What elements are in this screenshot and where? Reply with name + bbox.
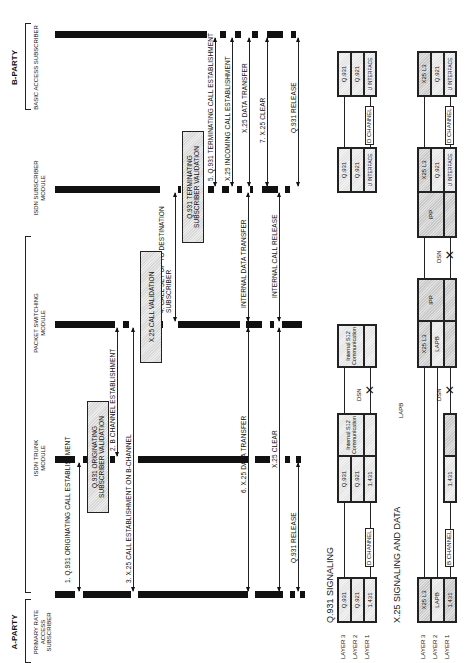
a-party-label: A-PARTY xyxy=(10,601,19,663)
ipp-link xyxy=(424,238,425,278)
stack-cell: X25 L3 xyxy=(418,578,431,622)
arrow-m8 xyxy=(298,463,299,591)
dsn-cross-icon: ✕ xyxy=(444,385,456,395)
stack-cell: 1.431 xyxy=(364,578,376,622)
arrow-m2 xyxy=(117,328,118,456)
stack-cell: 1.431 xyxy=(444,456,456,502)
stack-cell: Q.921 xyxy=(431,52,444,96)
q931-originating-validation-box: Q.931 ORIGINATING SUBSCRIBER VALIDATION xyxy=(87,401,109,513)
stack-cell: IPP xyxy=(418,192,444,237)
arrow-m6 xyxy=(248,328,249,591)
msg-5: 5. Q.931 TERMINATING CALL ESTABLISHMENT xyxy=(207,33,214,181)
stack-cell: X25 L3 xyxy=(418,148,431,192)
packet-switching-module-label: PACKET SWITCHING MODULE xyxy=(33,288,46,358)
stack-cell xyxy=(364,325,376,367)
x25-dsn-1: DSN xyxy=(436,388,442,401)
q931-stack-trunk: Q.931 Q.921 1.431 Internal S12 Communica… xyxy=(337,413,377,503)
stack-cell: Internal S12 Communication xyxy=(338,414,364,456)
msg-7: 7. X.25 CLEAR xyxy=(259,98,266,143)
arrow-m1 xyxy=(79,463,80,591)
q931-layer1-label: LAYER 1 xyxy=(364,635,370,659)
l3-link xyxy=(344,503,345,577)
b-party-bracket xyxy=(25,23,31,110)
msg-3: 3. X.25 CALL ESTABLISHMENT ON B-CHANNEL xyxy=(125,434,132,583)
msg-1: 1. Q.931 ORIGINATING CALL ESTABLISHMENT xyxy=(64,437,71,583)
msg-2: 2. B CHANNEL ESTABLISHMENT xyxy=(109,349,116,451)
q931-section-title: Q.931 SIGNALING xyxy=(325,547,335,623)
stack-cell: LAPB xyxy=(431,578,444,622)
b-party-label: B-PARTY xyxy=(10,25,19,110)
stack-cell: U INTERFACE xyxy=(444,148,456,192)
q931-stack-subscriber: Q.931 Q.921 U INTERFACE xyxy=(337,147,377,193)
b-party-subscriber: BASIC ACCESS SUBSCRIBER xyxy=(33,25,40,110)
stack-cell: U INTERFACE xyxy=(444,52,456,96)
msg-7b: X.25 CLEAR xyxy=(271,430,278,468)
x25-stack-trunk: 1.431 xyxy=(443,413,457,503)
arrow-m7b xyxy=(279,328,280,591)
msg-5b: X.25 INCOMING CALL ESTABLISHMENT xyxy=(224,56,231,181)
dsn-cross-icon: ✕ xyxy=(444,250,456,260)
stack-cell: Q.921 xyxy=(351,456,364,502)
x25-stack-a-party: X25 L3 LAPB 1.431 xyxy=(417,577,457,623)
msg-5c: X.25 DATA TRANSFER xyxy=(241,63,248,133)
l3-link xyxy=(344,97,345,147)
arrow-m6b xyxy=(248,193,249,321)
dsn-cross-icon: ✕ xyxy=(364,385,376,395)
stack-cell: 1.431 xyxy=(444,578,456,622)
x25-layer3-label: LAYER 3 xyxy=(420,635,426,659)
a-party-bracket xyxy=(25,599,31,663)
q931-stack-b-party: Q.931 Q.921 U INTERFACE xyxy=(337,51,377,97)
msg-8: Q.931 RELEASE xyxy=(290,512,297,563)
stack-cell: X25 L3 xyxy=(418,52,431,96)
msg-6: 6. X.25 DATA TRANSFER xyxy=(240,416,247,493)
q931-stack-a-party: Q.931 Q.921 1.431 xyxy=(337,577,377,623)
stack-cell: LAPB xyxy=(431,321,444,367)
arrow-m4 xyxy=(175,193,176,321)
exchange-bracket xyxy=(25,236,31,593)
stack-cell: Q.931 xyxy=(338,148,351,192)
isdn-subscriber-module-label: ISDN SUBSCRIBER MODULE xyxy=(33,153,46,223)
stack-cell: Q.921 xyxy=(351,148,364,192)
arrow-m7c xyxy=(279,193,280,321)
a-party-subscriber: PRIMARY RATE ACCESS SUBSCRIBER xyxy=(33,601,53,663)
arrow-m5b xyxy=(232,38,233,186)
stack-cell: U INTERFACE xyxy=(364,148,376,192)
isdn-trunk-module-label: ISDN TRUNK MODULE xyxy=(33,428,46,488)
q931-dsn-label: DSN xyxy=(356,388,362,401)
stack-cell: Q.931 xyxy=(338,456,351,502)
x25-call-validation-box: X.25 CALL VALIDATION xyxy=(140,251,162,363)
arrow-m8b xyxy=(298,38,299,186)
stack-cell: 1.431 xyxy=(364,456,376,502)
stack-cell: IPP xyxy=(418,279,444,321)
arrow-m7 xyxy=(267,38,268,186)
q931-layer2-label: LAYER 2 xyxy=(352,635,358,659)
q931-layer3-label: LAYER 3 xyxy=(340,635,346,659)
x25-channel-1: B CHANNEL xyxy=(445,529,454,567)
msg-6b: INTERNAL DATA TRANSFER xyxy=(240,219,247,308)
stack-cell: U INTERFACE xyxy=(364,52,376,96)
stack-cell: X25 L3 xyxy=(418,321,431,367)
x25-layer2-label: LAYER 2 xyxy=(432,635,438,659)
l3-link xyxy=(424,97,425,147)
stack-cell xyxy=(444,192,456,237)
stack-cell: Q.921 xyxy=(351,578,364,622)
x25-stack-psm: X25 L3 LAPB IPP xyxy=(417,278,457,368)
x25-layer1-label: LAYER 1 xyxy=(444,635,450,659)
stack-cell: Q.931 xyxy=(338,52,351,96)
msg-7c: INTERNAL CALL RELEASE xyxy=(271,214,278,298)
x25-channel-2: D CHANNEL xyxy=(445,106,454,145)
x25-section-title: X.25 SIGNALING AND DATA xyxy=(392,507,402,623)
msg-8b: Q.931 RELEASE xyxy=(290,82,297,133)
stack-cell xyxy=(444,279,456,321)
sequence-diagram-rotated: A-PARTY PRIMARY RATE ACCESS SUBSCRIBER I… xyxy=(0,0,476,663)
internal-link xyxy=(344,368,345,413)
stack-cell: Q.921 xyxy=(351,52,364,96)
x25-dsn-2: DSN xyxy=(436,250,442,263)
x25-stack-subscriber: IPP X25 L3 Q.921 U INTERFACE xyxy=(417,147,457,238)
stack-cell: Q.921 xyxy=(431,148,444,192)
stack-cell xyxy=(444,321,456,367)
q931-stack-psm: Internal S12 Communication xyxy=(337,324,377,368)
arrow-m5 xyxy=(215,38,216,186)
stack-cell xyxy=(364,414,376,456)
x25-stack-b-party: X25 L3 Q.921 U INTERFACE xyxy=(417,51,457,97)
